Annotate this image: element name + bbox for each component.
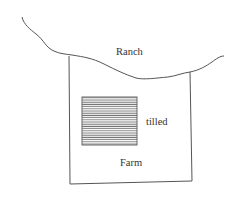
farm-label: Farm — [120, 157, 142, 168]
tilled-label: tilled — [146, 116, 168, 127]
ranch-farm-diagram: Ranch tilled Farm — [0, 0, 240, 199]
tilled-area — [82, 97, 137, 145]
ranch-label: Ranch — [116, 46, 144, 57]
